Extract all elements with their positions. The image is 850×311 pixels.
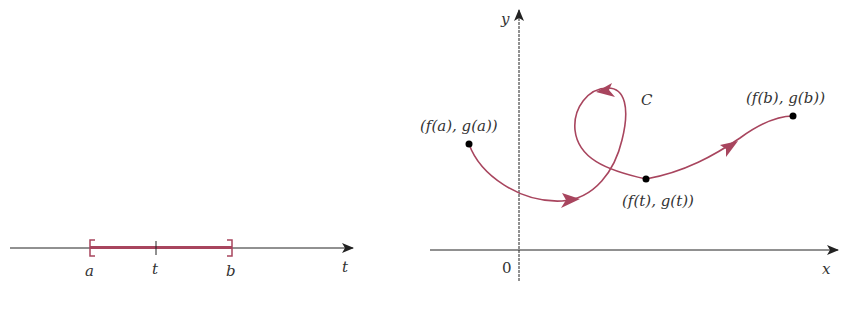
start-point xyxy=(466,141,473,148)
parametric-curve-diagram: a t b t x y 0 (f(a), g(a)) C (f(t), g(t)… xyxy=(0,0,850,311)
x-axis-label: x xyxy=(822,260,831,278)
end-point-label: (f(b), g(b)) xyxy=(746,89,825,107)
mid-point xyxy=(643,176,650,183)
label-t-mid: t xyxy=(152,260,159,278)
t-axis-label: t xyxy=(342,258,349,276)
xy-plane-panel: x y 0 (f(a), g(a)) C (f(t), g(t)) (f(b),… xyxy=(420,10,838,281)
end-point xyxy=(790,113,797,120)
t-axis-panel: a t b t xyxy=(10,240,353,280)
curve-label: C xyxy=(641,91,653,109)
label-a: a xyxy=(85,262,94,280)
y-axis-label: y xyxy=(500,10,510,28)
origin-label: 0 xyxy=(502,259,512,277)
start-point-label: (f(a), g(a)) xyxy=(420,117,498,135)
label-b: b xyxy=(226,262,236,280)
curve-c xyxy=(469,88,793,201)
mid-point-label: (f(t), g(t)) xyxy=(622,192,694,210)
